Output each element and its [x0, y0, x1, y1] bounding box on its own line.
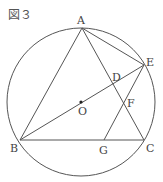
segment-ab	[20, 28, 82, 140]
label-b: B	[10, 142, 18, 155]
figure-title: 図３	[8, 8, 32, 22]
label-d: D	[112, 71, 121, 84]
label-f: F	[127, 97, 135, 110]
label-a: A	[76, 14, 86, 27]
label-e: E	[146, 56, 154, 69]
geometry-figure: 図３ A B C D E F G O	[0, 0, 163, 182]
label-o: O	[78, 105, 87, 118]
label-g: G	[99, 144, 108, 157]
segment-ae	[82, 28, 144, 65]
center-point-o	[79, 100, 82, 103]
label-c: C	[146, 142, 154, 155]
